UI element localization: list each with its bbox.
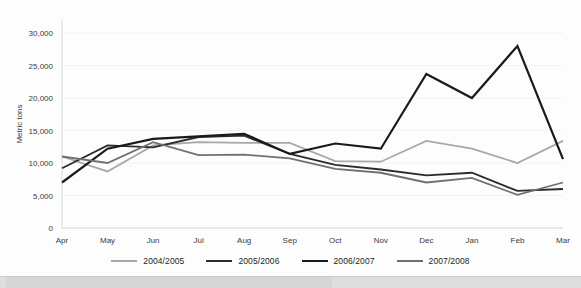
x-axis-tick-label: Aug [237,236,251,245]
series-line-2006-2007 [62,46,563,183]
legend-label: 2004/2005 [143,256,184,266]
y-axis-tick-label: 0 [49,224,54,233]
y-axis-tick-label: 20,000 [29,94,54,103]
x-axis-tick-label: Oct [329,236,342,245]
data-series-group [62,46,563,195]
x-axis-tick-label: Jul [194,236,204,245]
x-axis-tick-label: Mar [556,236,570,245]
legend-label: 2005/2006 [238,256,279,266]
series-line-2004-2005 [62,141,563,172]
y-axis-title-group: Metric tons [15,104,24,143]
x-axis-tick-label: Feb [511,236,525,245]
legend-line-swatch [397,260,423,262]
y-axis-tick-label: 30,000 [29,29,54,38]
x-axis-tick-label: May [100,236,115,245]
x-axis-tick-label: Jan [465,236,478,245]
y-axis-tick-labels: 05,00010,00015,00020,00025,00030,000 [29,29,54,233]
y-axis-tick-label: 5,000 [33,192,54,201]
y-axis-tick-label: 15,000 [29,127,54,136]
x-axis-tick-label: Jun [147,236,160,245]
x-axis-tick-label: Nov [374,236,388,245]
axis-lines-group [62,20,563,228]
window-footer-bar [0,276,581,288]
footer-segment [0,277,6,288]
x-axis-tick-label: Apr [56,236,69,245]
chart-plot-area: 05,00010,00015,00020,00025,00030,000 Apr… [0,0,581,252]
legend-line-swatch [206,260,232,262]
legend-item-2007-2008[interactable]: 2007/2008 [397,256,470,266]
series-line-2007-2008 [62,142,563,195]
x-axis-tick-labels: AprMayJunJulAugSepOctNovDecJanFebMar [56,236,570,245]
legend-item-2005-2006[interactable]: 2005/2006 [206,256,279,266]
legend-label: 2006/2007 [334,256,375,266]
y-axis-title: Metric tons [15,104,24,143]
legend-label: 2007/2008 [429,256,470,266]
gridlines-group [62,33,563,228]
legend-item-2004-2005[interactable]: 2004/2005 [111,256,184,266]
legend-line-swatch [302,260,328,262]
chart-legend: 2004/20052005/20062006/20072007/2008 [0,252,581,270]
legend-item-2006-2007[interactable]: 2006/2007 [302,256,375,266]
x-axis-tick-label: Dec [419,236,433,245]
footer-segment [332,277,581,288]
y-axis-tick-label: 10,000 [29,159,54,168]
legend-line-swatch [111,260,137,262]
x-axis-tick-label: Sep [283,236,298,245]
y-axis-tick-label: 25,000 [29,62,54,71]
